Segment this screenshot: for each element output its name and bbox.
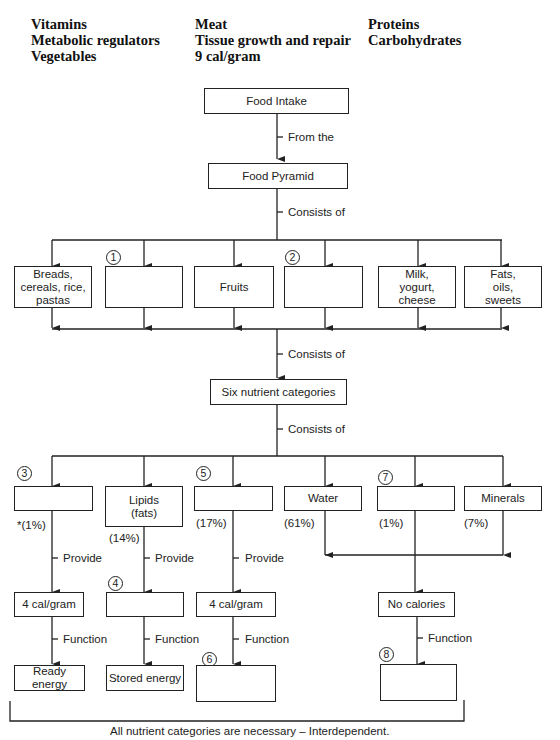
nutrient-label: Lipids (fats) (129, 494, 159, 520)
number-7-icon: 7 (378, 470, 393, 485)
function-label: Function (155, 633, 199, 646)
food-group-blank-1-box[interactable] (105, 266, 183, 308)
food-intake-label: Food Intake (246, 95, 307, 108)
number-5-icon: 5 (196, 466, 211, 481)
number-8-icon: 8 (379, 647, 394, 662)
no-calories-function-blank-8-box[interactable] (380, 664, 457, 701)
proteins-function-blank-6-box[interactable] (196, 665, 276, 702)
number-2-icon: 2 (285, 250, 300, 265)
proteins-calories-box: 4 cal/gram (196, 592, 276, 617)
nutrient-percent: *(1%) (17, 519, 46, 532)
no-calories-box: No calories (378, 592, 455, 617)
function-label: Function (428, 632, 472, 645)
provide-label: Provide (155, 552, 194, 565)
nutrient-water-box: Water (284, 486, 362, 511)
food-group-label: Breads, cereals, rice, pastas (20, 268, 85, 307)
six-nutrients-box: Six nutrient categories (210, 379, 347, 405)
food-intake-box: Food Intake (204, 88, 349, 114)
calories-label: 4 cal/gram (22, 598, 76, 611)
consists-of-label: Consists of (288, 348, 345, 361)
number-4-icon: 4 (108, 576, 123, 591)
number-1-icon: 1 (106, 250, 121, 265)
food-group-milk-box: Milk, yogurt, cheese (378, 266, 456, 308)
nutrient-percent: (17%) (196, 517, 227, 530)
food-group-label: Fruits (220, 281, 249, 294)
nutrient-minerals-box: Minerals (464, 486, 542, 511)
nutrient-lipids-box: Lipids (fats) (105, 486, 183, 527)
nutrient-blank-3-box[interactable] (14, 486, 93, 511)
carbs-calories-box: 4 cal/gram (14, 592, 84, 617)
nutrient-label: Water (308, 492, 338, 505)
calories-label: No calories (388, 598, 446, 611)
calories-label: 4 cal/gram (209, 598, 263, 611)
food-group-label: Fats, oils, sweets (485, 268, 521, 307)
nutrient-blank-5-box[interactable] (194, 486, 273, 511)
nutrient-percent: (1%) (379, 517, 403, 530)
consists-of-label: Consists of (288, 423, 345, 436)
nutrient-label: Minerals (481, 492, 524, 505)
function-label: Function (63, 633, 107, 646)
food-group-fats-box: Fats, oils, sweets (464, 266, 542, 308)
nutrient-percent: (61%) (284, 517, 315, 530)
carbs-function-box: Ready energy (14, 665, 85, 691)
nutrient-blank-7-box[interactable] (377, 486, 455, 511)
nutrient-percent: (14%) (109, 532, 140, 545)
consists-of-label: Consists of (288, 206, 345, 219)
provide-label: Provide (63, 552, 102, 565)
nutrient-percent: (7%) (464, 517, 488, 530)
lipids-function-box: Stored energy (106, 665, 184, 691)
provide-label: Provide (245, 552, 284, 565)
lipids-calories-blank-4-box[interactable] (106, 592, 184, 617)
food-group-blank-2-box[interactable] (284, 266, 363, 308)
from-the-label: From the (288, 131, 334, 144)
food-group-breads-box: Breads, cereals, rice, pastas (14, 266, 92, 308)
food-pyramid-box: Food Pyramid (208, 163, 348, 189)
six-nutrients-label: Six nutrient categories (222, 386, 336, 399)
food-pyramid-label: Food Pyramid (242, 170, 314, 183)
footer-note: All nutrient categories are necessary – … (110, 725, 389, 738)
function-value: Stored energy (109, 672, 181, 685)
function-label: Function (245, 633, 289, 646)
food-group-fruits-box: Fruits (194, 266, 274, 308)
number-3-icon: 3 (17, 466, 32, 481)
function-value: Ready energy (15, 665, 84, 691)
food-group-label: Milk, yogurt, cheese (398, 268, 435, 307)
